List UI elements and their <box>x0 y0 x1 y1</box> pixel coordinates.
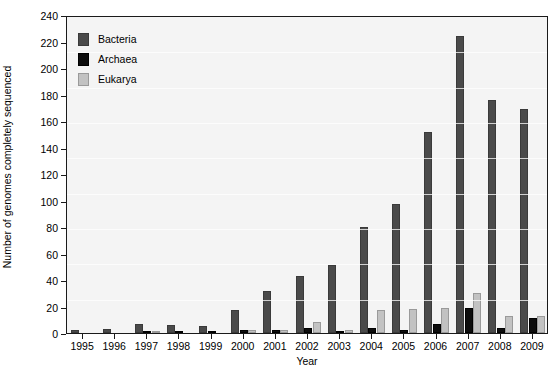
y-axis-tick-label: 180 <box>0 90 66 102</box>
bar-archaea-1999 <box>208 331 216 333</box>
y-axis-tick-label: 20 <box>0 302 66 314</box>
x-axis-tick-mark <box>243 334 244 339</box>
background-band <box>67 88 547 89</box>
bar-eukarya-2002 <box>313 322 321 333</box>
bar-archaea-2000 <box>240 330 248 333</box>
x-axis-tick-mark <box>275 334 276 339</box>
x-axis-tick-mark <box>468 334 469 339</box>
x-axis-tick-mark <box>82 334 83 339</box>
bar-archaea-2009 <box>529 318 537 333</box>
bar-bacteria-2008 <box>488 100 496 333</box>
bar-bacteria-1997 <box>135 324 143 333</box>
x-axis-tick-label: 2009 <box>509 340 555 352</box>
bar-archaea-2003 <box>336 331 344 333</box>
bar-eukarya-2000 <box>248 330 256 333</box>
bar-eukarya-2009 <box>537 316 545 333</box>
bar-eukarya-2001 <box>280 330 288 333</box>
legend-item-archaea[interactable]: Archaea <box>78 49 137 69</box>
chart-legend: BacteriaArchaeaEukarya <box>78 29 137 89</box>
bar-archaea-2002 <box>304 328 312 333</box>
bar-eukarya-2005 <box>409 309 417 333</box>
background-band <box>67 229 547 230</box>
bar-archaea-1997 <box>143 331 151 333</box>
bar-bacteria-2005 <box>392 204 400 333</box>
bacteria-swatch <box>78 33 89 46</box>
bar-bacteria-2002 <box>296 276 304 333</box>
y-axis-tick-mark <box>61 334 66 335</box>
y-axis-tick-label: 80 <box>0 222 66 234</box>
background-band <box>67 300 547 301</box>
bar-eukarya-2004 <box>377 310 385 333</box>
x-axis-tick-mark <box>403 334 404 339</box>
bar-eukarya-1997 <box>152 331 160 333</box>
bar-bacteria-2001 <box>263 291 271 333</box>
x-axis-tick-mark <box>500 334 501 339</box>
bar-archaea-2001 <box>272 330 280 333</box>
x-axis-tick-mark <box>307 334 308 339</box>
bar-chart-figure: Number of genomes completely sequenced 0… <box>0 0 555 374</box>
x-axis-tick-mark <box>211 334 212 339</box>
bar-bacteria-2007 <box>456 36 464 333</box>
bar-bacteria-1995 <box>71 330 79 333</box>
bar-eukarya-2006 <box>441 308 449 333</box>
y-axis-tick-label: 100 <box>0 196 66 208</box>
x-axis-title: Year <box>66 355 548 367</box>
y-axis-tick-label: 140 <box>0 143 66 155</box>
legend-item-label: Archaea <box>98 53 137 65</box>
y-axis-tick-label: 60 <box>0 249 66 261</box>
bar-eukarya-2003 <box>345 330 353 333</box>
bar-bacteria-2004 <box>360 227 368 333</box>
y-axis-tick-label: 0 <box>0 328 66 340</box>
background-band <box>67 158 547 159</box>
bar-archaea-2004 <box>368 328 376 333</box>
y-axis-tick-label: 220 <box>0 37 66 49</box>
bar-archaea-2007 <box>465 308 473 333</box>
bar-archaea-1998 <box>175 331 183 333</box>
bar-bacteria-2000 <box>231 310 239 333</box>
legend-item-bacteria[interactable]: Bacteria <box>78 29 137 49</box>
background-band <box>67 264 547 265</box>
background-band <box>67 194 547 195</box>
y-axis-tick-label: 240 <box>0 10 66 22</box>
legend-item-label: Bacteria <box>98 33 137 45</box>
plot-area <box>66 16 548 334</box>
legend-item-eukarya[interactable]: Eukarya <box>78 69 137 89</box>
legend-item-label: Eukarya <box>98 73 137 85</box>
bar-archaea-2005 <box>400 330 408 333</box>
bar-bacteria-2006 <box>424 132 432 333</box>
y-axis-tick-label: 200 <box>0 63 66 75</box>
x-axis-tick-mark <box>532 334 533 339</box>
y-axis-tick-label: 120 <box>0 169 66 181</box>
eukarya-swatch <box>78 73 89 86</box>
bar-bacteria-1999 <box>199 326 207 333</box>
bar-archaea-2006 <box>433 324 441 333</box>
bar-bacteria-1996 <box>103 329 111 333</box>
x-axis-tick-mark <box>178 334 179 339</box>
bar-eukarya-2008 <box>505 316 513 333</box>
bar-archaea-2008 <box>497 328 505 333</box>
y-axis-tick-label: 40 <box>0 275 66 287</box>
archaea-swatch <box>78 53 89 66</box>
x-axis-tick-mark <box>114 334 115 339</box>
bar-bacteria-1998 <box>167 325 175 333</box>
y-axis-tick-label: 160 <box>0 116 66 128</box>
x-axis-tick-mark <box>371 334 372 339</box>
x-axis-tick-mark <box>436 334 437 339</box>
x-axis-tick-mark <box>146 334 147 339</box>
background-band <box>67 52 547 53</box>
x-axis-tick-mark <box>339 334 340 339</box>
background-band <box>67 123 547 124</box>
